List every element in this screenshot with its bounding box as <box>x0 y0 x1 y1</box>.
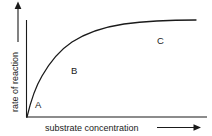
curve-label-a: A <box>35 99 42 110</box>
right-arrow-icon <box>194 124 202 131</box>
saturation-curve <box>27 20 196 117</box>
up-arrow-icon <box>15 2 22 10</box>
x-axis-title: substrate concentration <box>45 123 139 133</box>
enzyme-kinetics-figure: rate of reaction substrate concentration… <box>0 0 212 136</box>
curve-label-b: B <box>71 65 77 76</box>
curve-label-c: C <box>157 35 164 46</box>
chart-canvas: rate of reaction substrate concentration… <box>0 0 212 136</box>
y-axis-title: rate of reaction <box>10 52 20 112</box>
